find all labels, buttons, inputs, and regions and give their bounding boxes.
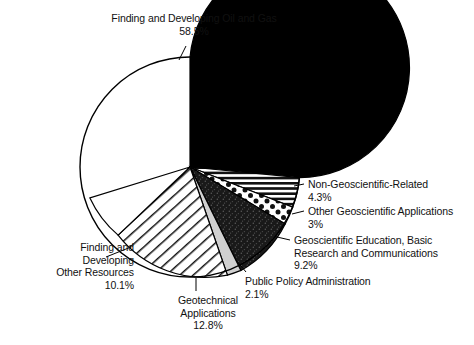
pie-label-other-resources: Finding and Developing Other Resources 1… <box>12 241 134 291</box>
leader-line-geoscientific-education <box>277 237 290 240</box>
pie-label-public-policy-text: Public Policy Administration <box>245 275 405 288</box>
pie-label-other-geoscientific: Other Geoscientific Applications 3% <box>308 205 474 230</box>
pie-label-geoscientific-education-text-1: Geoscientific Education, Basic <box>294 234 474 247</box>
pie-label-oil-and-gas-text: Finding and Developing Oil and Gas <box>83 12 305 25</box>
pie-label-public-policy: Public Policy Administration 2.1% <box>245 275 405 300</box>
pie-label-public-policy-value: 2.1% <box>245 288 405 301</box>
pie-label-non-geoscientific: Non-Geoscientific-Related 4.3% <box>308 178 472 203</box>
pie-label-other-resources-text-3: Other Resources <box>12 266 134 279</box>
pie-chart-figure: Finding and Developing Oil and Gas 58.5%… <box>0 0 474 345</box>
pie-label-geotechnical-text-2: Applications <box>148 307 268 320</box>
pie-label-geoscientific-education-value: 9.2% <box>294 259 474 272</box>
pie-label-non-geoscientific-text: Non-Geoscientific-Related <box>308 178 472 191</box>
leader-line-other-geoscientific <box>292 211 304 214</box>
pie-label-geotechnical-value: 12.8% <box>148 319 268 332</box>
pie-label-other-resources-value: 10.1% <box>12 279 134 292</box>
pie-label-other-resources-text-2: Developing <box>12 254 134 267</box>
pie-label-other-resources-text-1: Finding and <box>12 241 134 254</box>
pie-label-other-geoscientific-text: Other Geoscientific Applications <box>308 205 474 218</box>
pie-label-non-geoscientific-value: 4.3% <box>308 191 472 204</box>
pie-label-geotechnical-text-1: Geotechnical <box>148 294 268 307</box>
pie-label-other-geoscientific-value: 3% <box>308 218 474 231</box>
pie-label-oil-and-gas: Finding and Developing Oil and Gas 58.5% <box>83 12 305 37</box>
pie-label-geoscientific-education: Geoscientific Education, Basic Research … <box>294 234 474 272</box>
pie-label-oil-and-gas-value: 58.5% <box>83 25 305 38</box>
pie-label-geotechnical: Geotechnical Applications 12.8% <box>148 294 268 332</box>
pie-label-geoscientific-education-text-2: Research and Communications <box>294 247 474 260</box>
